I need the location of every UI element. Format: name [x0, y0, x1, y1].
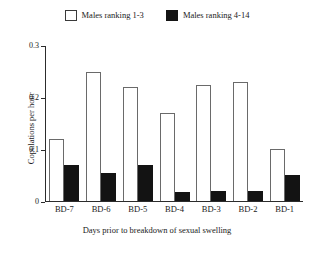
bar-bd-6-series-2	[101, 173, 116, 201]
x-tick-label-bd-2: BD-2	[230, 205, 267, 214]
legend-entry-males-ranking-4-14: Males ranking 4-14	[166, 10, 250, 21]
bar-bd-7-series-2	[64, 165, 79, 201]
legend-label-males-ranking-4-14: Males ranking 4-14	[183, 11, 250, 20]
bar-chart-figure: Males ranking 1-3 Males ranking 4-14 00.…	[0, 0, 314, 253]
bar-bd-7-series-1	[49, 139, 64, 201]
bar-bd-3-series-1	[196, 85, 211, 201]
legend-entry-males-ranking-1-3: Males ranking 1-3	[65, 10, 144, 21]
bar-bd-2-series-1	[233, 82, 248, 201]
y-tick-label: 0	[35, 198, 39, 206]
x-axis-title: Days prior to breakdown of sexual swelli…	[0, 226, 314, 235]
open-square-icon	[65, 10, 77, 21]
plot-area: 00.10.20.3	[45, 46, 303, 202]
chart-legend: Males ranking 1-3 Males ranking 4-14	[0, 10, 314, 21]
filled-square-icon	[166, 10, 178, 21]
bar-group-bd-5	[119, 46, 156, 201]
x-tick-label-bd-5: BD-5	[119, 205, 156, 214]
bar-group-bd-1	[266, 46, 303, 201]
bar-group-bd-6	[83, 46, 120, 201]
x-tick-label-bd-6: BD-6	[83, 205, 120, 214]
bar-bd-5-series-1	[123, 87, 138, 201]
y-axis-title: Copulations per hour	[27, 48, 36, 208]
x-tick-label-bd-4: BD-4	[156, 205, 193, 214]
bar-group-bd-7	[46, 46, 83, 201]
bar-bd-1-series-2	[285, 175, 300, 201]
x-axis-line	[45, 201, 303, 202]
x-tick-labels: BD-7BD-6BD-5BD-4BD-3BD-2BD-1	[46, 205, 303, 214]
bar-bd-5-series-2	[138, 165, 153, 201]
y-tick-mark	[41, 202, 45, 203]
y-tick-mark	[41, 150, 45, 151]
legend-label-males-ranking-1-3: Males ranking 1-3	[82, 11, 144, 20]
bar-bd-3-series-2	[211, 191, 226, 201]
bar-bd-4-series-2	[175, 192, 190, 201]
bar-bd-2-series-2	[248, 191, 263, 201]
bar-bd-4-series-1	[160, 113, 175, 201]
bar-group-bd-3	[193, 46, 230, 201]
x-tick-label-bd-3: BD-3	[193, 205, 230, 214]
x-tick-label-bd-1: BD-1	[266, 205, 303, 214]
bar-groups	[46, 46, 303, 201]
y-tick-mark	[41, 46, 45, 47]
bar-bd-1-series-1	[270, 149, 285, 201]
bar-bd-6-series-1	[86, 72, 101, 201]
bar-group-bd-4	[156, 46, 193, 201]
x-tick-label-bd-7: BD-7	[46, 205, 83, 214]
y-tick-mark	[41, 98, 45, 99]
bar-group-bd-2	[230, 46, 267, 201]
